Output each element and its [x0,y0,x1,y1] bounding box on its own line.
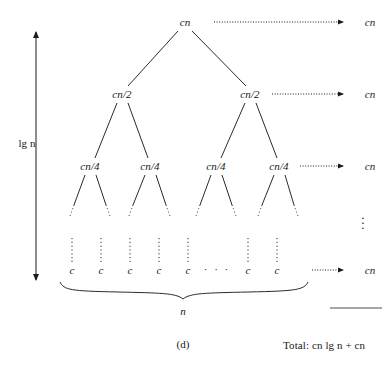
tree-leaf-2: c [128,264,133,276]
tree-edges-level-2-3 [74,175,294,205]
figure-vector-layer [0,0,389,369]
tree-edges-dotted-tails [70,205,298,216]
tree-node-level-1-1: cn/2 [240,88,259,100]
tree-edges-level-0-1 [128,31,246,86]
tree-leaf-5: c [246,264,251,276]
tree-leaf-1: c [99,264,104,276]
row-cost-level-0: cn [365,16,376,28]
row-cost-level-2: cn [365,160,376,172]
recursion-tree-figure: lg n cn cn cn/2 cn/2 cn cn/4 cn/4 cn/4 c… [0,0,389,369]
figure-caption: (d) [176,338,189,350]
leaf-horizontal-ellipsis: · · · [204,263,231,275]
tree-edges-level-1-2 [95,103,277,158]
tree-node-level-2-0: cn/4 [80,160,99,172]
depth-label: lg n [18,137,35,149]
tree-node-level-1-0: cn/2 [112,88,131,100]
row-cost-arrows [214,22,343,270]
tree-node-level-2-1: cn/4 [140,160,159,172]
tree-leaf-3: c [157,264,162,276]
row-cost-level-leaf: cn [365,264,376,276]
leaf-dotted-risers [72,238,277,262]
leaf-span-brace [60,282,308,299]
tree-leaf-0: c [70,264,75,276]
tree-leaf-6: c [275,264,280,276]
tree-leaf-4: c [186,264,191,276]
tree-node-level-2-2: cn/4 [206,160,225,172]
total-cost-label: Total: cn lg n + cn [283,339,365,351]
tree-node-level-0-0: cn [180,16,191,28]
leaf-span-label: n [180,305,186,317]
levels-vertical-ellipsis: ··· [361,215,365,230]
tree-node-level-2-3: cn/4 [269,160,288,172]
total-cost-text: Total: cn lg n + cn [283,339,365,351]
row-cost-level-1: cn [365,88,376,100]
